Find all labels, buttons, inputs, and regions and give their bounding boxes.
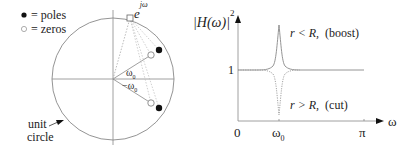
zero-lower <box>148 100 154 106</box>
x-tick-pi: π <box>359 126 366 139</box>
x-tick-w0-base: ω <box>272 125 281 140</box>
vector-to-pole-lower <box>130 18 159 108</box>
x-tick-w0-sub: 0 <box>281 134 285 143</box>
y-axis-label-exponent: 2 <box>230 8 235 18</box>
x-tick-0: 0 <box>234 126 241 139</box>
boost-label-note: (boost) <box>325 26 359 40</box>
y-axis-label: |H(ω)|2 <box>193 14 235 30</box>
legend-zero-icon <box>21 26 26 31</box>
legend-zeros-label: = zeros <box>31 23 66 35</box>
unit-circle-label-line1: unit <box>28 118 47 130</box>
unit-circle-point-marker <box>127 15 133 21</box>
cut-label-condition: r > R, <box>290 98 319 112</box>
unit-circle-pointer-line <box>49 122 58 126</box>
x-axis-label: ω <box>388 115 397 128</box>
angle-label-positive: ω0 <box>126 68 136 80</box>
point-label-exponent: jω <box>140 0 148 9</box>
angle-label-negative: −ω0 <box>122 81 137 93</box>
boost-label-condition: r < R, <box>290 26 319 40</box>
unit-circle-label-line2: circle <box>27 131 54 143</box>
point-label-base: e <box>134 6 140 21</box>
cut-label: r > R, (cut) <box>290 99 348 111</box>
pole-upper <box>156 47 162 53</box>
arrow-icon <box>56 120 64 125</box>
unit-circle-point-label: ejω <box>134 7 148 20</box>
y-axis-arrow-icon <box>235 15 241 23</box>
x-tick-w0: ω0 <box>272 126 285 143</box>
angle-neg-base: −ω <box>122 80 134 91</box>
y-tick-1: 1 <box>228 64 234 76</box>
x-axis-arrow-icon <box>376 118 384 124</box>
legend-pole-icon <box>21 12 26 17</box>
zero-upper <box>148 52 154 58</box>
boost-label: r < R, (boost) <box>290 27 359 39</box>
angle-pos-base: ω <box>126 67 133 78</box>
cut-label-note: (cut) <box>325 98 348 112</box>
legend-poles-label: = poles <box>31 9 66 21</box>
y-axis-label-base: |H(ω)| <box>193 15 230 30</box>
angle-neg-sub: 0 <box>134 87 137 93</box>
pole-lower <box>156 105 162 111</box>
